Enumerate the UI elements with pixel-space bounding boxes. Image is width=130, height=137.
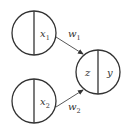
- neuron-y-label: y: [106, 67, 113, 78]
- input-node-x1: x1: [12, 11, 56, 55]
- edge-x2-to-neuron: w2: [56, 90, 83, 115]
- neuron-node: z y: [76, 50, 120, 94]
- neuron-z-label: z: [84, 67, 91, 78]
- edge-x1-to-neuron: w1: [56, 28, 83, 54]
- weight-w1-label: w1: [68, 28, 81, 42]
- neuron-diagram: x1 x2 z y w1 w2: [0, 0, 130, 137]
- weight-w2-label: w2: [68, 101, 81, 115]
- input-node-x2: x2: [12, 79, 56, 123]
